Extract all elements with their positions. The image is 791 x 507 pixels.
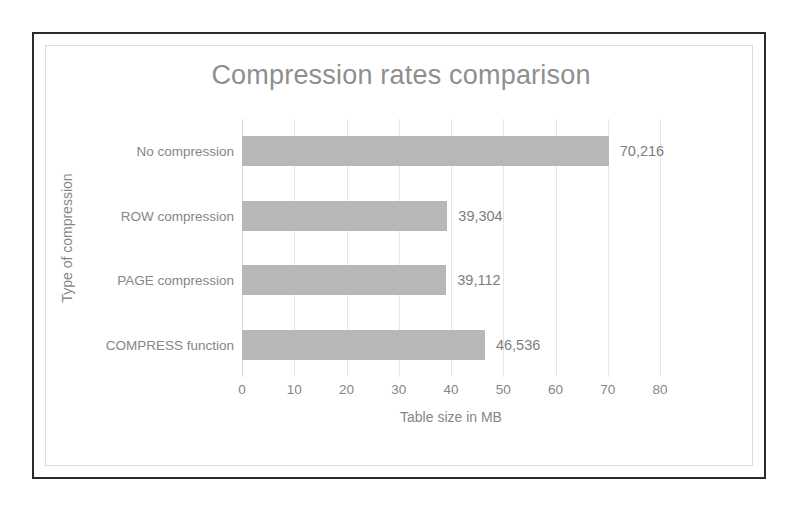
y-axis-tick-label: No compression	[84, 144, 234, 159]
x-axis-tick-label: 50	[496, 382, 511, 397]
x-axis-tick-label: 80	[652, 382, 667, 397]
y-axis-tick-label: PAGE compression	[84, 273, 234, 288]
x-axis-title: Table size in MB	[242, 409, 660, 425]
x-axis-tick-label: 30	[391, 382, 406, 397]
y-axis-title: Type of compression	[59, 153, 75, 323]
bar[interactable]	[242, 136, 609, 166]
bar-row: 70,216	[242, 119, 780, 184]
x-axis-tick-label: 40	[443, 382, 458, 397]
x-axis-tick-label: 60	[548, 382, 563, 397]
bar-value-label: 70,216	[620, 143, 664, 159]
bar[interactable]	[242, 330, 485, 360]
document-outer-border: Compression rates comparison Type of com…	[32, 32, 766, 479]
x-axis-tick-labels: 0 10 20 30 40 50 60 70 80	[242, 382, 660, 406]
x-axis-tick-label: 70	[600, 382, 615, 397]
x-axis-tick-label: 0	[238, 382, 246, 397]
bar-chart: Compression rates comparison Type of com…	[34, 34, 768, 481]
page-canvas: Compression rates comparison Type of com…	[0, 0, 791, 507]
bar-value-label: 39,304	[458, 208, 502, 224]
y-axis-tick-labels: No compression ROW compression PAGE comp…	[74, 119, 234, 377]
y-axis-tick-label: COMPRESS function	[84, 337, 234, 352]
bar-value-label: 46,536	[496, 337, 540, 353]
bar[interactable]	[242, 265, 446, 295]
bar[interactable]	[242, 201, 447, 231]
bar-value-label: 39,112	[457, 272, 500, 288]
plot-area: 70,216 39,304 39,112 46,536	[242, 119, 660, 377]
bar-row: 39,112	[242, 248, 780, 313]
bar-row: 46,536	[242, 313, 780, 378]
x-axis-tick-label: 20	[339, 382, 354, 397]
bar-row: 39,304	[242, 184, 780, 249]
chart-title: Compression rates comparison	[34, 60, 768, 91]
x-axis-tick-label: 10	[287, 382, 302, 397]
y-axis-tick-label: ROW compression	[84, 208, 234, 223]
